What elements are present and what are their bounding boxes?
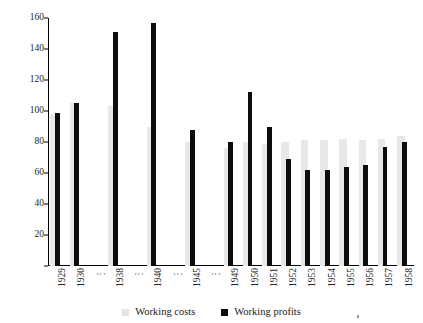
bar-working-profits [325,170,330,266]
bar-working-profits [113,32,118,266]
x-axis-tick-labels: 19291930⋮1938⋮1940⋮1945⋮1949195019511952… [48,268,414,302]
bar-working-profits [190,130,195,266]
x-axis-gap-marker: ⋮ [135,268,145,279]
y-axis-tick-label: 160 [30,13,44,23]
bar-working-profits [344,167,349,266]
bar-working-profits [286,159,291,266]
x-axis-tick-label: 1956 [366,268,376,287]
x-axis-gap-marker: ⋮ [212,268,222,279]
x-axis-tick-label: 1930 [77,268,87,287]
bar-working-profits [228,142,233,266]
y-axis-tick-label: 120 [30,75,44,85]
bar-group [337,18,356,266]
bar-group-gap [164,18,183,266]
bar-group [260,18,279,266]
bar-working-profits [248,92,253,266]
bar-working-profits [305,170,310,266]
x-axis-tick-label: 1929 [58,268,68,287]
bar-group [279,18,298,266]
bar-group [144,18,163,266]
bar-group [183,18,202,266]
x-axis-tick-label: 1953 [308,268,318,287]
x-axis-tick-label: 1954 [328,268,338,287]
legend-item: Working costs [122,307,195,318]
x-axis-tick-label: 1951 [270,268,280,287]
y-axis-tick-label: 80 [35,137,45,147]
y-axis-tick-label: 100 [30,106,44,116]
bar-group-gap [202,18,221,266]
page-speck [357,315,359,318]
bar-group [356,18,375,266]
y-axis-tick-label: 40 [35,199,45,209]
x-axis-tick-label: 1955 [347,268,357,287]
bar-group [106,18,125,266]
x-axis-tick-label: 1949 [231,268,241,287]
plot-area [48,18,414,266]
bar-working-profits [363,165,368,266]
legend-label: Working profits [234,307,301,318]
bar-group [375,18,394,266]
x-axis-tick-label: 1940 [154,268,164,287]
bar-group-gap [125,18,144,266]
y-axis-tick-label: 20 [35,230,45,240]
x-axis-gap-marker: ⋮ [174,268,184,279]
bar-group [318,18,337,266]
y-axis-tick-labels: 20406080100120140160 [0,18,44,266]
y-axis-tick-label: 140 [30,44,44,54]
bar-working-profits [151,23,156,266]
x-axis-tick-label: 1950 [251,268,261,287]
legend-item: Working profits [221,307,301,318]
x-axis-tick-label: 1958 [405,268,415,287]
bar-group [298,18,317,266]
legend-swatch-profits [221,309,228,316]
x-axis-gap-marker: ⋮ [97,268,107,279]
bar-group [67,18,86,266]
chart-legend: Working costsWorking profits [0,303,423,321]
bar-group [221,18,240,266]
bar-group [241,18,260,266]
bar-group [395,18,414,266]
bar-working-profits [74,103,79,266]
bar-group-gap [87,18,106,266]
x-axis-tick-label: 1952 [289,268,299,287]
bar-chart: 20406080100120140160 19291930⋮1938⋮1940⋮… [0,0,423,323]
x-axis-tick-label: 1938 [116,268,126,287]
legend-swatch-costs [122,309,129,316]
bar-working-profits [55,113,60,266]
x-axis-tick-label: 1957 [385,268,395,287]
bar-working-profits [402,142,407,266]
bar-working-profits [383,147,388,266]
bar-group [48,18,67,266]
y-axis-tick-label: 60 [35,168,45,178]
x-axis-tick-label: 1945 [193,268,203,287]
bar-working-profits [267,127,272,267]
legend-label: Working costs [135,307,195,318]
